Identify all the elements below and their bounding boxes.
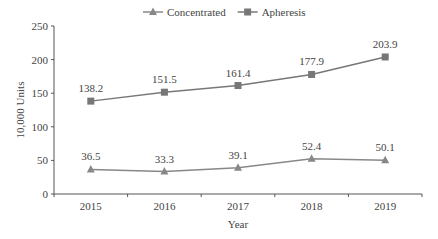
series-concentrated: 36.533.339.152.450.1 bbox=[81, 140, 395, 175]
y-axis-label: 10,000 Units bbox=[14, 82, 26, 139]
legend-label: Apheresis bbox=[262, 6, 306, 18]
data-label: 138.2 bbox=[78, 82, 103, 94]
y-tick-label: 250 bbox=[32, 20, 49, 32]
x-tick-label: 2019 bbox=[374, 200, 397, 212]
x-axis-label: Year bbox=[228, 218, 249, 230]
x-tick-label: 2015 bbox=[80, 200, 103, 212]
series-line bbox=[91, 57, 385, 101]
triangle-marker-icon bbox=[308, 154, 316, 162]
data-label: 36.5 bbox=[81, 150, 101, 162]
triangle-marker-icon bbox=[87, 165, 95, 173]
data-label: 50.1 bbox=[376, 141, 395, 153]
data-label: 203.9 bbox=[373, 38, 398, 50]
series-apheresis: 138.2151.5161.4177.9203.9 bbox=[78, 38, 398, 105]
legend: ConcentratedApheresis bbox=[143, 6, 306, 18]
square-marker-icon bbox=[308, 71, 315, 78]
y-tick-label: 200 bbox=[32, 54, 49, 66]
data-label: 39.1 bbox=[228, 149, 247, 161]
x-tick-label: 2018 bbox=[301, 200, 324, 212]
legend-square-icon bbox=[244, 9, 251, 16]
legend-item-concentrated: Concentrated bbox=[143, 6, 226, 18]
y-tick-label: 0 bbox=[43, 188, 49, 200]
x-tick-label: 2017 bbox=[227, 200, 250, 212]
data-label: 161.4 bbox=[226, 67, 251, 79]
y-tick-label: 50 bbox=[37, 154, 49, 166]
data-label: 151.5 bbox=[152, 73, 177, 85]
data-label: 177.9 bbox=[299, 55, 324, 67]
series-layer: 36.533.339.152.450.1138.2151.5161.4177.9… bbox=[78, 38, 398, 175]
square-marker-icon bbox=[235, 82, 242, 89]
square-marker-icon bbox=[382, 53, 389, 60]
y-tick-label: 150 bbox=[32, 87, 49, 99]
line-chart: ConcentratedApheresis 050100150200250201… bbox=[0, 0, 438, 239]
square-marker-icon bbox=[161, 89, 168, 96]
square-marker-icon bbox=[87, 98, 94, 105]
y-tick-label: 100 bbox=[32, 121, 49, 133]
legend-label: Concentrated bbox=[167, 6, 226, 18]
x-tick-label: 2016 bbox=[153, 200, 176, 212]
data-label: 52.4 bbox=[302, 140, 322, 152]
data-label: 33.3 bbox=[155, 153, 175, 165]
legend-item-apheresis: Apheresis bbox=[238, 6, 306, 18]
axes: 05010015020025020152016201720182019Year1… bbox=[14, 20, 422, 230]
